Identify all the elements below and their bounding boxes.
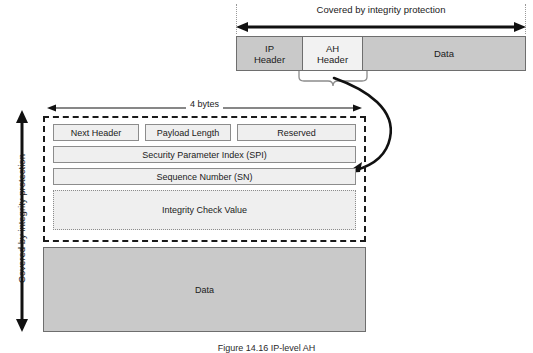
figure-caption: Figure 14.16 IP-level AH xyxy=(0,343,533,353)
payload-data-block: Data xyxy=(43,247,366,332)
field-sequence-number: Sequence Number (SN) xyxy=(53,168,356,185)
ah-header-detail-box: Next Header Payload Length Reserved Secu… xyxy=(43,116,366,242)
top-integrity-arrow xyxy=(236,19,526,31)
left-integrity-label: Covered by integrity protection xyxy=(16,104,27,334)
packet-segment-data: Data xyxy=(363,37,525,70)
field-spi: Security Parameter Index (SPI) xyxy=(53,146,356,163)
top-integrity-label: Covered by integrity protection xyxy=(236,4,526,15)
field-integrity-check-value: Integrity Check Value xyxy=(53,190,356,230)
ip-header-line1: IP xyxy=(265,43,274,54)
packet-segment-ip-header: IP Header xyxy=(237,37,303,70)
ah-header-line2: Header xyxy=(317,54,348,65)
packet-data-label: Data xyxy=(434,48,454,59)
ah-field-row-2: Security Parameter Index (SPI) xyxy=(53,146,356,163)
top-packet-strip: IP Header AH Header Data xyxy=(236,36,526,71)
ah-field-row-3: Sequence Number (SN) xyxy=(53,168,356,185)
field-reserved: Reserved xyxy=(237,124,356,141)
four-bytes-label: 4 bytes xyxy=(47,99,362,109)
ah-field-row-1: Next Header Payload Length Reserved xyxy=(53,124,356,141)
ip-header-line2: Header xyxy=(254,54,285,65)
field-next-header: Next Header xyxy=(53,124,139,141)
packet-segment-ah-header: AH Header xyxy=(303,37,363,70)
ah-header-line1: AH xyxy=(326,43,339,54)
field-payload-length: Payload Length xyxy=(145,124,231,141)
